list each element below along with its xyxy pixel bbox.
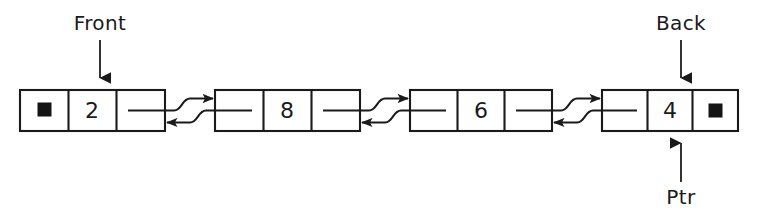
node-2-value: 8 [280,98,294,123]
forward-link-arrow-3 [552,99,600,111]
back-pointer-label: Back [656,11,706,35]
link-node1-node2 [165,99,215,123]
backward-link-arrow-3 [554,111,602,123]
backward-link-arrow-2 [362,111,410,123]
node-1-value: 2 [85,98,99,123]
forward-link-arrow-2 [360,99,408,111]
linked-list-diagram: 2 8 6 [0,0,766,219]
forward-link-arrow-1 [165,99,213,111]
ptr-pointer-label: Ptr [666,185,696,209]
null-marker-icon [709,104,722,117]
list-node-1: 2 [20,90,165,131]
ptr-pointer-label-group: Ptr [666,143,696,209]
front-pointer-label: Front [74,11,127,35]
back-pointer-label-group: Back [656,11,706,79]
null-marker-icon [38,103,51,116]
node-4-value: 4 [663,98,677,123]
front-pointer-label-group: Front [74,11,127,79]
list-node-2: 8 [215,90,360,131]
list-node-3: 6 [410,90,552,131]
link-node2-node3 [360,99,410,123]
list-node-4: 4 [602,90,738,131]
link-node3-node4 [552,99,602,123]
backward-link-arrow-1 [167,111,215,123]
diagram-canvas: 2 8 6 [0,0,766,219]
node-3-value: 6 [474,98,488,123]
